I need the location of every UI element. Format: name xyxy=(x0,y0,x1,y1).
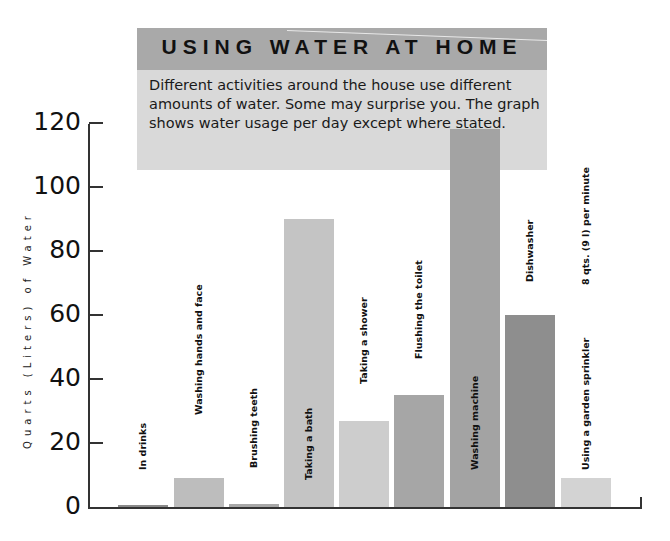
bar xyxy=(174,478,224,507)
y-tick-label: 120 xyxy=(9,107,81,136)
y-tick-label: 80 xyxy=(9,235,81,264)
bar-label: Washing machine xyxy=(469,376,480,470)
y-tick xyxy=(89,314,103,316)
bar xyxy=(505,315,555,507)
y-tick-label: 100 xyxy=(9,171,81,200)
bar xyxy=(118,505,168,507)
bar-label: Washing hands and face xyxy=(193,284,204,415)
bar-label: Brushing teeth xyxy=(248,388,259,468)
bar-label: Dishwasher xyxy=(524,220,535,282)
title-banner: USING WATER AT HOME xyxy=(137,28,547,70)
y-tick-label: 0 xyxy=(9,491,81,520)
y-tick xyxy=(89,122,103,124)
bar xyxy=(561,478,611,507)
y-tick xyxy=(89,378,103,380)
bar-label: Using a garden sprinkler xyxy=(580,338,591,470)
x-axis xyxy=(88,507,641,509)
x-axis-end-tick xyxy=(640,497,642,509)
y-tick-label: 60 xyxy=(9,299,81,328)
y-tick-label: 20 xyxy=(9,427,81,456)
chart-description: Different activities around the house us… xyxy=(149,76,544,133)
y-axis xyxy=(88,124,90,508)
bar xyxy=(229,504,279,507)
bar-label: Flushing the toilet xyxy=(413,260,424,359)
y-tick-label: 40 xyxy=(9,363,81,392)
y-tick xyxy=(89,250,103,252)
chart-title: USING WATER AT HOME xyxy=(137,35,547,59)
y-tick xyxy=(89,186,103,188)
bar-label: In drinks xyxy=(137,423,148,470)
bar xyxy=(394,395,444,507)
bar-annotation: 8 qts. (9 l) per minute xyxy=(580,167,591,285)
bar-label: Taking a shower xyxy=(358,297,369,384)
bar-label: Taking a bath xyxy=(303,408,314,480)
bar xyxy=(339,421,389,507)
y-tick xyxy=(89,442,103,444)
